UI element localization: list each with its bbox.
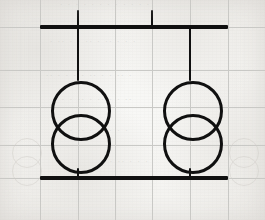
top-busbar [40,25,228,28]
ink-drawing-layer [0,0,265,220]
scanned-schematic-page: ∙ ∙ ∙ ∙ ∙ ∙ ∙ ∙ ∙ ∙ ∙ ∙∙ ∙ ∙ ∙∙ ∙ ∙∙ ∙ ∙… [0,0,265,220]
right-transformer-secondary-coil [163,114,223,174]
bottom-busbar [40,176,228,179]
lead-right-upper-lead [189,27,192,81]
left-transformer-secondary-coil [51,114,111,174]
lead-left-upper-lead [77,10,80,81]
